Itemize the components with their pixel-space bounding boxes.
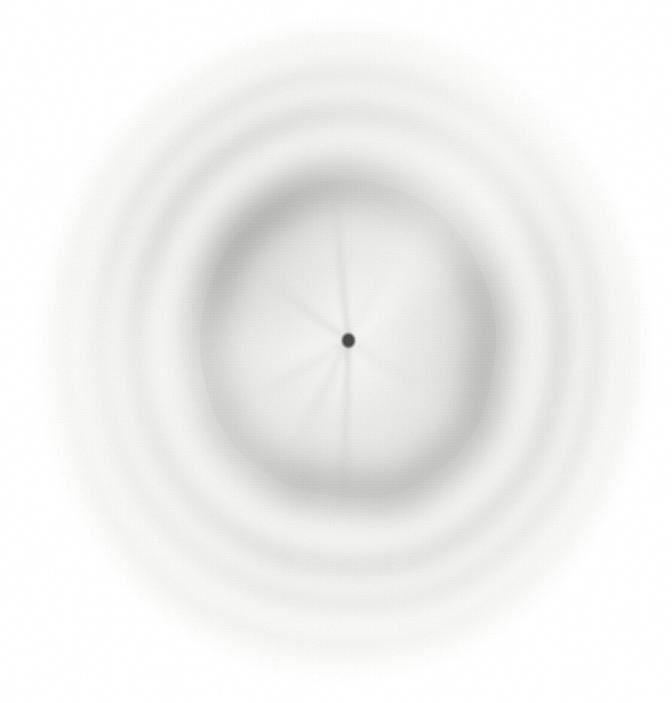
diffraction-pattern-figure — [0, 0, 672, 703]
photographic-plate — [0, 0, 672, 703]
diffraction-pattern-canvas — [0, 0, 672, 703]
